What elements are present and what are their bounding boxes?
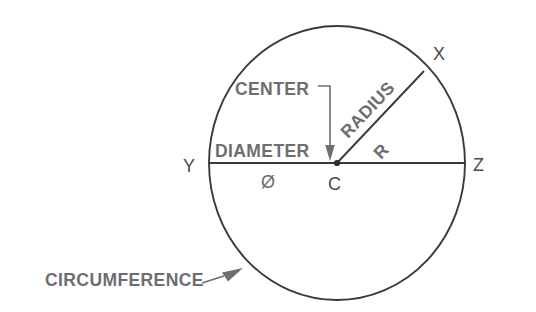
circle-diagram-canvas: CENTER DIAMETER Ø RADIUS R CIRCUMFERENCE… — [0, 0, 536, 312]
label-center: CENTER — [235, 79, 309, 99]
circle-diagram-figure: CENTER DIAMETER Ø RADIUS R CIRCUMFERENCE… — [0, 0, 536, 312]
center-leader-arrowhead — [325, 145, 335, 161]
label-circumference: CIRCUMFERENCE — [45, 270, 204, 290]
label-radius: RADIUS — [336, 78, 398, 142]
label-radius-symbol: R — [369, 140, 392, 163]
center-point-dot — [334, 160, 340, 166]
label-point-x: X — [433, 44, 445, 64]
circumference-leader-arrowhead — [222, 268, 243, 282]
center-leader-line — [318, 86, 330, 145]
label-point-z: Z — [473, 155, 484, 175]
label-diameter: DIAMETER — [215, 141, 310, 161]
label-point-c: C — [328, 174, 341, 194]
circumference-leader-line — [202, 276, 224, 283]
label-diameter-symbol: Ø — [261, 172, 275, 192]
label-point-y: Y — [183, 156, 195, 176]
